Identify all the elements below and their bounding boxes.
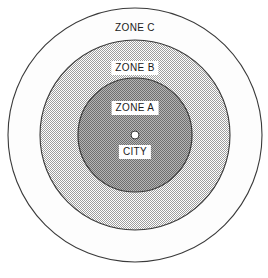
city-marker-icon xyxy=(131,131,139,139)
zone-rings-svg xyxy=(0,0,268,278)
concentric-zone-diagram: ZONE C ZONE B ZONE A CITY xyxy=(0,0,268,278)
